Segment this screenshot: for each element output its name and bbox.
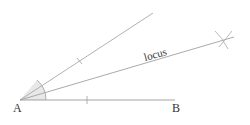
angle-bisector-diagram: A B locus: [0, 0, 250, 125]
construction-arc-1: [215, 31, 228, 49]
bisector-line: [20, 37, 234, 100]
locus-label: locus: [142, 45, 168, 63]
endpoint-label-b: B: [172, 101, 180, 115]
tick-mark-upper-ray: [77, 58, 82, 64]
vertex-label-a: A: [13, 101, 22, 115]
upper-ray: [20, 13, 153, 100]
